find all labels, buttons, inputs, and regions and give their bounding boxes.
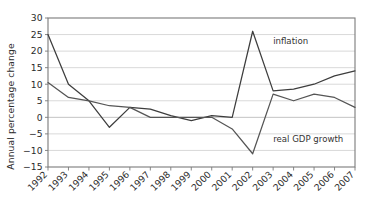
x-tick-label: 1995 — [86, 169, 110, 193]
x-tick-label: 2003 — [250, 169, 274, 193]
y-tick-label: 10 — [31, 79, 43, 90]
series-line-inflation — [48, 31, 355, 127]
x-tick-label: 2002 — [230, 169, 254, 193]
y-tick-label: 5 — [37, 95, 43, 106]
chart-canvas: 302520151050−5−10−15 1992199319941995199… — [0, 0, 370, 213]
y-axis-ticks: 302520151050−5−10−15 — [23, 12, 48, 172]
x-tick-label: 2006 — [312, 169, 336, 193]
x-tick-label: 1999 — [168, 169, 192, 193]
y-tick-label: −10 — [23, 145, 43, 156]
x-tick-label: 1994 — [66, 169, 90, 193]
y-tick-label: −5 — [29, 128, 43, 139]
x-tick-label: 2000 — [189, 169, 213, 193]
y-tick-label: 20 — [31, 45, 43, 56]
annotation-label: real GDP growth — [273, 134, 343, 144]
x-tick-label: 2001 — [209, 169, 233, 193]
y-tick-label: 25 — [31, 29, 43, 40]
x-tick-label: 1993 — [46, 169, 70, 193]
annotation-label: inflation — [273, 36, 308, 46]
x-tick-label: 2007 — [332, 169, 356, 193]
y-tick-label: 30 — [31, 12, 43, 23]
x-tick-label: 1997 — [127, 169, 151, 193]
plot-border — [48, 18, 355, 167]
x-tick-label: 2004 — [271, 169, 295, 193]
gridlines — [48, 35, 355, 151]
x-tick-label: 2005 — [291, 169, 315, 193]
x-axis-ticks: 1992199319941995199619971998199920002001… — [25, 167, 356, 193]
x-tick-label: 1998 — [148, 169, 172, 193]
plot-frame — [48, 18, 355, 167]
x-tick-label: 1996 — [107, 169, 131, 193]
y-tick-label: 15 — [31, 62, 43, 73]
line-chart: Annual percentage change 302520151050−5−… — [0, 0, 370, 213]
y-tick-label: 0 — [37, 112, 43, 123]
